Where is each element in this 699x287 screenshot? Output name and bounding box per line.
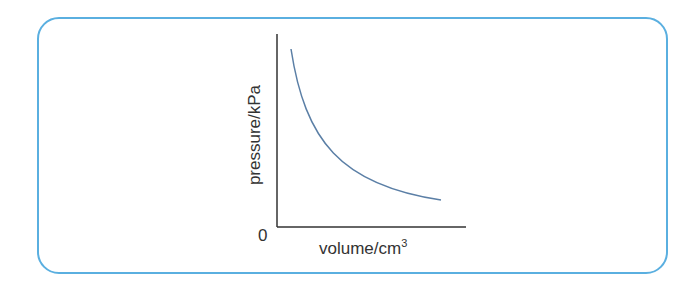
x-axis-label: volume/cm3 xyxy=(319,237,407,259)
origin-label: 0 xyxy=(258,226,267,246)
x-axis-label-text: volume/cm xyxy=(319,239,401,258)
x-axis-label-exponent: 3 xyxy=(401,237,407,249)
pressure-volume-curve xyxy=(291,49,441,200)
y-axis-label: pressure/kPa xyxy=(245,85,265,185)
